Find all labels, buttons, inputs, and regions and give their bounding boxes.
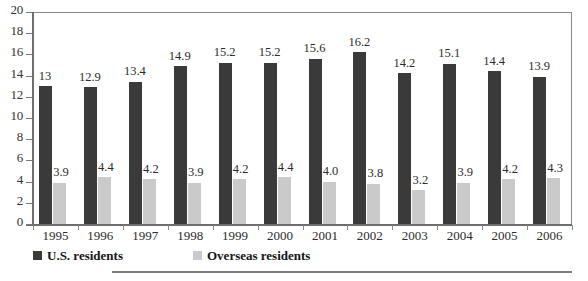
bar-us-residents xyxy=(129,82,142,224)
legend-label: U.S. residents xyxy=(47,249,123,262)
bar-overseas-residents xyxy=(143,179,156,224)
x-axis-tick-mark xyxy=(347,225,348,230)
bar-overseas-residents xyxy=(188,183,201,224)
bar-value-label: 4.2 xyxy=(135,163,167,176)
bar-group: 14.93.9 xyxy=(168,12,213,224)
bar-us-residents xyxy=(533,77,546,224)
bar-us-residents xyxy=(353,52,366,224)
x-axis-tick-label: 2001 xyxy=(303,229,348,243)
x-axis-tick-label: 1999 xyxy=(213,229,258,243)
bar-value-label: 15.1 xyxy=(433,47,465,60)
bar-value-label: 15.2 xyxy=(209,46,241,59)
x-axis-tick-mark xyxy=(258,225,259,230)
y-axis-tick-mark xyxy=(26,54,32,55)
y-axis-tick-mark xyxy=(26,203,32,204)
bar-group: 16.23.8 xyxy=(347,12,392,224)
y-axis-tick-mark xyxy=(26,118,32,119)
x-axis-tick-mark xyxy=(123,225,124,230)
y-axis-tick-label: 14 xyxy=(10,67,23,80)
bar-value-label: 14.9 xyxy=(164,50,196,63)
bar-overseas-residents xyxy=(457,183,470,224)
bar-value-label: 3.9 xyxy=(449,166,481,179)
bar-us-residents xyxy=(174,66,187,224)
y-axis-tick-label: 0 xyxy=(17,215,23,228)
bar-overseas-residents xyxy=(547,178,560,224)
bar-group: 13.44.2 xyxy=(123,12,168,224)
bar-overseas-residents xyxy=(502,179,515,224)
bar-overseas-residents xyxy=(412,190,425,224)
y-axis-tick-label: 2 xyxy=(17,194,23,207)
bar-value-label: 14.2 xyxy=(388,57,420,70)
bar-chart: 02468101214161820 133.912.94.413.44.214.… xyxy=(0,0,588,281)
x-axis-tick-label: 2002 xyxy=(347,229,392,243)
x-axis: 1995199619971998199920002001200220032004… xyxy=(33,225,572,247)
y-axis-tick-mark xyxy=(26,139,32,140)
x-axis-tick-label: 2004 xyxy=(437,229,482,243)
x-axis-tick-mark xyxy=(78,225,79,230)
x-axis-tick-mark xyxy=(303,225,304,230)
y-axis-tick-mark xyxy=(26,12,32,13)
x-axis-tick-label: 1996 xyxy=(78,229,123,243)
x-axis-tick-mark xyxy=(527,225,528,230)
x-axis-tick-label: 1995 xyxy=(33,229,78,243)
y-axis-tick-label: 18 xyxy=(10,24,23,37)
bar-overseas-residents xyxy=(323,182,336,224)
y-axis-tick-label: 6 xyxy=(17,151,23,164)
y-axis-tick-label: 4 xyxy=(17,173,23,186)
bottom-divider xyxy=(112,271,572,273)
x-axis-tick-label: 1998 xyxy=(168,229,213,243)
bar-value-label: 13 xyxy=(29,70,61,83)
y-axis-tick-mark xyxy=(26,224,32,225)
bar-value-label: 15.2 xyxy=(254,46,286,59)
bar-us-residents xyxy=(264,63,277,224)
bar-value-label: 4.2 xyxy=(494,163,526,176)
y-axis-tick-label: 10 xyxy=(10,109,23,122)
bar-us-residents xyxy=(398,73,411,224)
bar-group: 14.44.2 xyxy=(482,12,527,224)
bar-us-residents xyxy=(309,59,322,224)
bar-group: 133.9 xyxy=(33,12,78,224)
bar-group: 13.94.3 xyxy=(527,12,572,224)
legend-item: U.S. residents xyxy=(33,249,123,262)
bar-group: 14.23.2 xyxy=(392,12,437,224)
bar-us-residents xyxy=(219,63,232,224)
x-axis-tick-mark xyxy=(168,225,169,230)
bar-group: 15.64.0 xyxy=(303,12,348,224)
bar-group: 15.24.4 xyxy=(258,12,303,224)
bar-us-residents xyxy=(488,71,501,224)
y-axis: 02468101214161820 xyxy=(0,12,32,224)
y-axis-tick-label: 12 xyxy=(10,88,23,101)
x-axis-tick-label: 2000 xyxy=(258,229,303,243)
x-axis-tick-label: 2006 xyxy=(527,229,572,243)
bar-value-label: 12.9 xyxy=(74,71,106,84)
bar-value-label: 15.6 xyxy=(299,42,331,55)
bar-group: 15.13.9 xyxy=(437,12,482,224)
legend-item: Overseas residents xyxy=(193,249,310,262)
bar-group: 12.94.4 xyxy=(78,12,123,224)
y-axis-tick-mark xyxy=(26,33,32,34)
x-axis-tick-label: 1997 xyxy=(123,229,168,243)
x-axis-tick-mark xyxy=(482,225,483,230)
x-axis-tick-mark xyxy=(392,225,393,230)
y-axis-tick-mark xyxy=(26,182,32,183)
bar-value-label: 4.2 xyxy=(225,163,257,176)
x-axis-tick-mark xyxy=(213,225,214,230)
legend-swatch-icon xyxy=(33,251,42,260)
bar-group: 15.24.2 xyxy=(213,12,258,224)
y-axis-tick-mark xyxy=(26,160,32,161)
y-axis-tick-label: 8 xyxy=(17,130,23,143)
x-axis-tick-label: 2003 xyxy=(392,229,437,243)
bar-us-residents xyxy=(443,64,456,224)
bar-value-label: 13.4 xyxy=(119,65,151,78)
bar-value-label: 3.8 xyxy=(359,167,391,180)
bar-value-label: 13.9 xyxy=(523,60,555,73)
bar-value-label: 14.4 xyxy=(478,55,510,68)
bar-overseas-residents xyxy=(233,179,246,224)
y-axis-tick-mark xyxy=(26,97,32,98)
bar-value-label: 4.4 xyxy=(270,161,302,174)
bar-overseas-residents xyxy=(367,184,380,224)
y-axis-tick-label: 16 xyxy=(10,45,23,58)
bar-value-label: 3.9 xyxy=(180,166,212,179)
bar-value-label: 3.9 xyxy=(45,166,77,179)
x-axis-tick-mark xyxy=(572,225,573,230)
